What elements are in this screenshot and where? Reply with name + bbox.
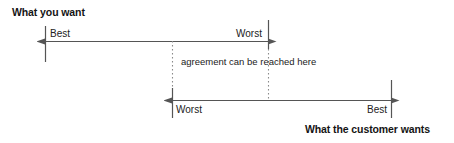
you-worst-label: Worst	[236, 28, 262, 40]
negotiation-zone-diagram: What you want Best Worst agreement can b…	[0, 0, 454, 143]
title-what-the-customer-wants: What the customer wants	[305, 123, 430, 135]
customer-best-label: Best	[367, 104, 387, 116]
customer-worst-label: Worst	[176, 104, 202, 116]
title-what-you-want: What you want	[12, 6, 85, 18]
agreement-zone-note: agreement can be reached here	[181, 57, 269, 68]
diagram-lines	[0, 0, 454, 143]
you-best-label: Best	[50, 28, 70, 40]
